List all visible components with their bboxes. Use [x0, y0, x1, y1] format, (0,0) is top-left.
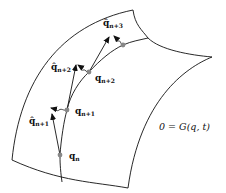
correction-arrow-n1 — [51, 108, 67, 111]
point-qn — [58, 153, 63, 158]
manifold-surface — [12, 10, 212, 188]
manifold-diagram: qn qn+1 qn+2 q̂n+1 q̂n+2 q̂n+3 0 = G(q, … — [0, 0, 226, 193]
prediction-arrow-n1 — [52, 114, 60, 155]
point-qn3 — [121, 43, 126, 48]
label-qhat-n1: q̂n+1 — [29, 116, 49, 127]
manifold-equation: 0 = G(q, t) — [159, 121, 210, 132]
label-qn: qn — [69, 151, 80, 162]
label-qn1: qn+1 — [75, 106, 95, 117]
label-qn2: qn+2 — [95, 73, 115, 84]
point-qn1 — [65, 108, 70, 113]
label-qhat-n3: q̂n+3 — [103, 18, 123, 29]
label-qhat-n2: q̂n+2 — [51, 62, 71, 73]
prediction-arrow-n3 — [89, 37, 109, 72]
point-qn2 — [87, 70, 92, 75]
